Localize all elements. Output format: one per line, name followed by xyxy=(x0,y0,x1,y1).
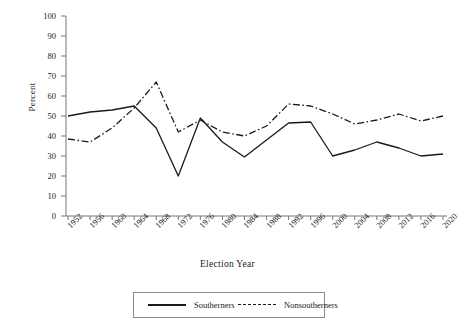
y-tick-label: 10 xyxy=(20,191,56,201)
y-tick-label: 80 xyxy=(20,51,56,61)
legend-label-southerners: Southerners xyxy=(194,300,235,310)
y-tick-label: 50 xyxy=(20,111,56,121)
y-tick-label: 0 xyxy=(20,211,56,221)
series-line-nonsoutherners xyxy=(68,82,443,142)
y-tick-label: 30 xyxy=(20,151,56,161)
y-tick-label: 60 xyxy=(20,91,56,101)
y-tick-label: 20 xyxy=(20,171,56,181)
legend-items: SouthernersNonsoutherners xyxy=(134,293,324,317)
legend-swatch-nonsoutherners xyxy=(238,304,276,305)
y-tick-label: 100 xyxy=(20,11,56,21)
legend-swatch-southerners xyxy=(148,304,186,306)
y-tick-label: 40 xyxy=(20,131,56,141)
y-tick-label: 90 xyxy=(20,31,56,41)
y-tick-label: 70 xyxy=(20,71,56,81)
series-lines xyxy=(68,82,443,176)
legend-label-nonsoutherners: Nonsoutherners xyxy=(284,300,338,310)
y-tick-marks xyxy=(61,16,66,216)
chart-legend: SouthernersNonsoutherners xyxy=(133,292,325,318)
x-axis-title: Election Year xyxy=(0,259,455,269)
